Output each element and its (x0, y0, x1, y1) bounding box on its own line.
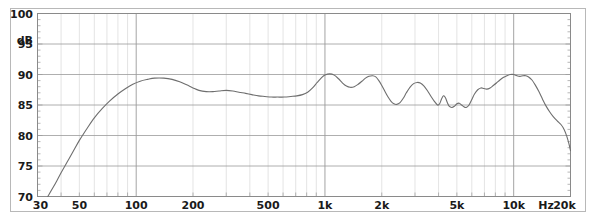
x-tick-label: 100 (125, 199, 148, 212)
x-tick-label: 500 (257, 199, 280, 212)
x-tick-label: 2k (374, 199, 390, 212)
y-tick-label: 75 (18, 160, 33, 173)
x-tick-label: 200 (182, 199, 205, 212)
y-tick-label: 90 (18, 69, 34, 82)
y-tick-label: 70 (18, 191, 34, 204)
x-tick-label: 30 (33, 199, 49, 212)
x-axis-unit-label: Hz (538, 199, 554, 212)
y-tick-label: 100 (10, 8, 33, 21)
x-tick-label: 5k (449, 199, 465, 212)
x-tick-label: 50 (72, 199, 88, 212)
x-tick-label: 10k (502, 199, 525, 212)
y-axis-unit-label: dB (17, 34, 33, 47)
y-tick-label: 85 (18, 99, 33, 112)
y-tick-label: 80 (18, 130, 34, 143)
chart-canvas: 707580859095100 30501002005001k2k5k10k20… (0, 0, 597, 224)
frequency-response-chart: 707580859095100 30501002005001k2k5k10k20… (0, 0, 597, 224)
x-tick-label: 20k (553, 199, 576, 212)
x-tick-label: 1k (317, 199, 333, 212)
chart-background (0, 0, 597, 224)
